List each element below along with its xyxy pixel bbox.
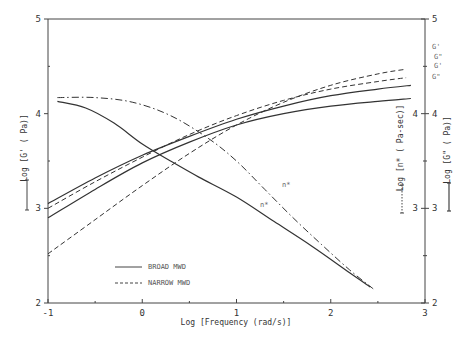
y-left-tick-label: 5 [36, 14, 41, 24]
legend-label-narrow: NARROW MWD [148, 279, 190, 287]
series-line-5 [57, 97, 373, 289]
x-axis-title: Log [Frequency (rad/s)] [181, 318, 292, 327]
label-g-prime-broad: G' [434, 62, 442, 70]
y-left-tick-label: 2 [36, 298, 41, 308]
rheology-chart: -10123 2345 342345 G' G" G' G" n* n* BRO… [0, 0, 473, 341]
y-left-tick-label: 4 [36, 109, 41, 119]
label-g-double-prime-narrow: G" [434, 53, 442, 61]
y-right-outer-tick-label: 4 [432, 109, 437, 119]
legend-label-broad: BROAD MWD [148, 263, 186, 271]
y-axis-right-inner-title: Log [n* ( Pa-sec)] [396, 105, 405, 192]
scale-bar-left [25, 180, 29, 210]
y-right-inner-tick-label: 3 [413, 203, 418, 213]
y-axis-left-tick-labels: 2345 [36, 14, 41, 308]
legend: BROAD MWD NARROW MWD [115, 263, 190, 287]
series-line-3 [48, 78, 406, 209]
x-tick-label: -1 [43, 308, 54, 318]
y-right-inner-tick-label: 4 [413, 109, 418, 119]
x-axis-tick-labels: -10123 [43, 308, 428, 318]
y-left-tick-label: 3 [36, 203, 41, 213]
label-eta-broad: n* [260, 201, 268, 209]
y-right-outer-tick-label: 5 [432, 14, 437, 24]
label-g-double-prime-broad: G" [432, 73, 440, 81]
plot-frame [48, 19, 425, 303]
series-line-4 [57, 101, 370, 287]
y-axis-left-ticks [44, 19, 50, 303]
x-tick-label: 0 [140, 308, 145, 318]
scale-bar-right-outer [447, 183, 451, 211]
x-axis-ticks [48, 299, 425, 303]
y-axis-right-outer-title: Log [G" ( Pa)] [443, 116, 452, 183]
x-tick-label: 2 [328, 308, 333, 318]
label-g-prime-narrow: G' [432, 43, 440, 51]
y-axis-left-title: Log [G' ( Pa)] [20, 114, 29, 181]
label-eta-narrow: n* [282, 181, 290, 189]
x-tick-label: 1 [234, 308, 239, 318]
series-line-2 [48, 69, 406, 254]
series-group [48, 69, 411, 289]
y-right-outer-tick-label: 3 [432, 203, 437, 213]
y-right-outer-tick-label: 2 [432, 298, 437, 308]
x-tick-label: 3 [422, 308, 427, 318]
